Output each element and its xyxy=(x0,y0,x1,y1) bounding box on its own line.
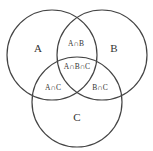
label-b-intersect-c: B∩C xyxy=(92,83,107,92)
label-a-intersect-b-intersect-c: A∩B∩C xyxy=(64,62,90,71)
label-a-intersect-c: A∩C xyxy=(45,83,61,92)
venn-diagram: A B C A∩B A∩C B∩C A∩B∩C xyxy=(0,0,153,151)
label-a-intersect-b: A∩B xyxy=(68,39,84,48)
label-b: B xyxy=(110,42,117,54)
venn-svg: A B C A∩B A∩C B∩C A∩B∩C xyxy=(0,0,153,151)
label-a: A xyxy=(34,42,42,54)
label-c: C xyxy=(73,111,80,123)
